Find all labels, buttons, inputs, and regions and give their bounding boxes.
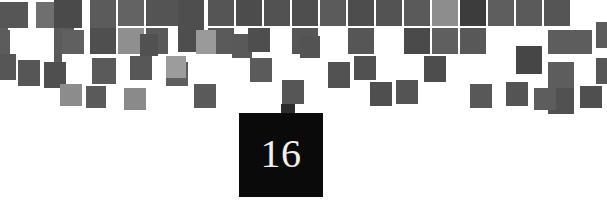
mosaic-tile bbox=[432, 28, 458, 54]
mosaic-tile bbox=[62, 30, 84, 54]
mosaic-tile bbox=[60, 84, 82, 106]
mosaic-tile bbox=[0, 54, 16, 80]
mosaic-tile bbox=[90, 0, 116, 28]
mosaic-tile bbox=[54, 0, 82, 28]
mosaic-tile bbox=[124, 88, 146, 110]
mosaic-tile bbox=[348, 28, 374, 54]
mosaic-tile bbox=[282, 80, 304, 104]
mosaic-tile bbox=[354, 56, 376, 80]
mosaic-tile bbox=[118, 0, 144, 26]
mosaic-tile bbox=[86, 86, 106, 108]
mosaic-tile bbox=[140, 34, 158, 56]
mosaic-tile bbox=[460, 28, 486, 54]
mosaic-tile bbox=[292, 0, 318, 26]
mosaic-tile bbox=[534, 88, 556, 110]
mosaic-tile bbox=[470, 84, 492, 108]
mosaic-tile bbox=[348, 0, 374, 26]
mosaic-tile bbox=[396, 80, 418, 104]
mosaic-tile bbox=[370, 82, 392, 106]
mosaic-tile bbox=[90, 28, 116, 54]
mosaic-tile bbox=[432, 0, 458, 26]
mosaic-tile bbox=[548, 62, 574, 88]
mosaic-tile bbox=[548, 30, 592, 54]
mosaic-tile bbox=[596, 58, 607, 84]
mosaic-tile bbox=[320, 0, 346, 26]
mosaic-tile bbox=[166, 56, 186, 78]
mosaic-tile bbox=[250, 58, 272, 82]
chapter-badge: 16 bbox=[239, 113, 323, 197]
mosaic-tile bbox=[208, 0, 234, 26]
mosaic-tile bbox=[328, 62, 350, 88]
mosaic-tile bbox=[424, 56, 446, 82]
mosaic-tile bbox=[580, 86, 602, 108]
mosaic-tile bbox=[194, 84, 216, 108]
mosaic-tile bbox=[404, 28, 430, 54]
mosaic-tile bbox=[36, 2, 54, 28]
mosaic-tile bbox=[130, 56, 152, 80]
mosaic-tile bbox=[0, 30, 10, 54]
chapter-number: 16 bbox=[261, 134, 302, 174]
mosaic-tile bbox=[488, 0, 514, 26]
mosaic-tile bbox=[236, 0, 262, 26]
mosaic-tile bbox=[248, 28, 270, 52]
mosaic-tile bbox=[196, 30, 216, 54]
mosaic-tile bbox=[0, 2, 28, 28]
mosaic-tile bbox=[516, 0, 542, 26]
mosaic-tile bbox=[92, 58, 116, 84]
mosaic-tile bbox=[544, 0, 570, 26]
mosaic-tile bbox=[264, 0, 290, 26]
mosaic-tile bbox=[506, 82, 528, 106]
mosaic-tile bbox=[18, 60, 40, 86]
mosaic-tile bbox=[376, 0, 402, 26]
chapter-divider-page: 16 bbox=[0, 0, 607, 221]
mosaic-tile bbox=[300, 36, 320, 58]
mosaic-tile bbox=[596, 22, 607, 48]
mosaic-tile bbox=[404, 0, 430, 26]
mosaic-tile bbox=[460, 0, 486, 26]
mosaic-tile bbox=[516, 46, 542, 74]
